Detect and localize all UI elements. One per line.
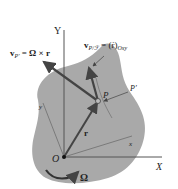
rotating-frame-diagram: Y X y x O P P′ r Ω vP′ = Ω × r vP/ℱ = (ṙ… [0, 0, 178, 189]
label-position-vector-r: r [84, 128, 88, 138]
origin-point [62, 155, 66, 159]
label-v-P-rel-equation: vP/ℱ = (ṙ)Oxy [84, 40, 127, 51]
point-P-marker [96, 99, 101, 104]
label-angular-velocity: Ω [80, 172, 88, 183]
label-origin: O [52, 153, 59, 164]
label-point-P: P [102, 90, 109, 100]
label-axis-Y: Y [54, 25, 61, 36]
label-axis-X: X [155, 161, 163, 172]
label-v-P-prime-equation: vP′ = Ω × r [10, 48, 50, 59]
label-point-P-prime: P′ [129, 84, 137, 93]
